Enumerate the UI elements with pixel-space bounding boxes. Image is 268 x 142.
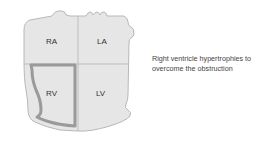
chamber-label-rv: RV <box>46 89 57 98</box>
heart-diagram: RA LA RV LV <box>0 0 150 142</box>
chamber-label-la: LA <box>97 37 107 46</box>
heart-outline-icon <box>0 0 150 142</box>
chamber-label-ra: RA <box>46 37 57 46</box>
chamber-label-lv: LV <box>96 89 105 98</box>
diagram-caption: Right ventricle hypertrophies to overcom… <box>152 54 266 74</box>
